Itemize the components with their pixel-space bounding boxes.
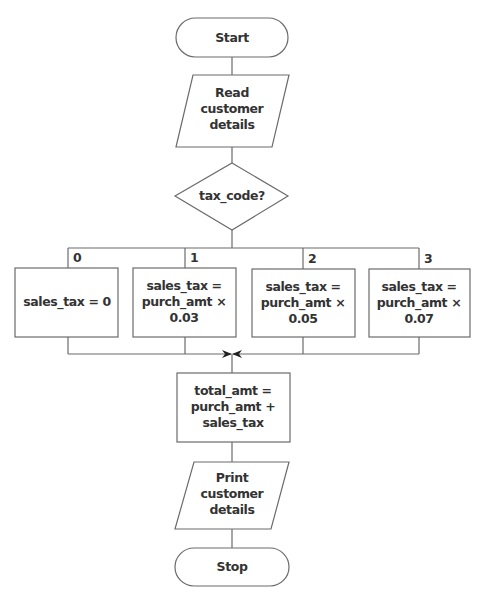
branch-code-2: 2 <box>308 251 317 266</box>
box-2-line-2: purch_amt × <box>261 295 345 311</box>
total-line-2: purch_amt + <box>191 399 275 415</box>
read-input-parallelogram: Read customer details <box>176 75 289 147</box>
print-line-2: customer <box>201 486 265 501</box>
box-3-line-2: purch_amt × <box>377 295 461 311</box>
read-line-1: Read <box>215 85 249 100</box>
process-box-3: sales_tax = purch_amt × 0.07 <box>369 269 470 337</box>
branch-code-1: 1 <box>190 250 199 265</box>
box-0-line-1: sales_tax = 0 <box>23 294 111 310</box>
box-1-line-3: 0.03 <box>169 310 198 325</box>
process-box-2: sales_tax = purch_amt × 0.05 <box>252 269 355 337</box>
total-process-box: total_amt = purch_amt + sales_tax <box>177 373 290 442</box>
print-output-parallelogram: Print customer details <box>175 462 289 529</box>
print-line-3: details <box>209 502 254 517</box>
box-3-line-1: sales_tax = <box>381 279 456 295</box>
decision-diamond: tax_code? <box>175 163 288 230</box>
start-terminal: Start <box>176 18 288 57</box>
decision-label: tax_code? <box>199 188 265 204</box>
print-line-1: Print <box>216 470 249 485</box>
branch-code-0: 0 <box>73 250 82 265</box>
read-line-3: details <box>209 117 254 132</box>
box-1-line-2: purch_amt × <box>142 294 226 310</box>
total-line-1: total_amt = <box>194 383 271 399</box>
total-line-3: sales_tax <box>202 415 264 431</box>
process-box-0: sales_tax = 0 <box>15 268 118 337</box>
branch-code-3: 3 <box>424 251 433 266</box>
process-box-1: sales_tax = purch_amt × 0.03 <box>133 268 236 337</box>
box-3-line-3: 0.07 <box>404 311 433 326</box>
stop-terminal: Stop <box>175 548 289 586</box>
box-1-line-1: sales_tax = <box>146 278 221 294</box>
flowchart: Start Read customer details tax_code? 0 … <box>0 0 482 598</box>
box-2-line-1: sales_tax = <box>265 279 340 295</box>
stop-label: Stop <box>217 559 248 574</box>
start-label: Start <box>215 30 249 45</box>
read-line-2: customer <box>201 101 265 116</box>
box-2-line-3: 0.05 <box>288 311 317 326</box>
